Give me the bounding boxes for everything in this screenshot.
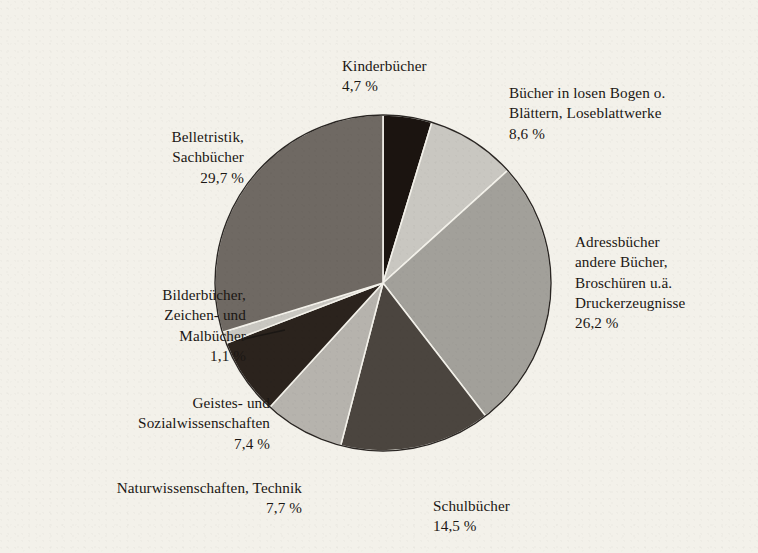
slice-label-kinderbuecher-pct: 4,7 % (342, 76, 532, 96)
slice-label-naturwissenschaften-text: Naturwissenschaften, Technik (117, 479, 302, 496)
slice-label-adressbuecher-text: Adressbücher andere Bücher, Broschüren u… (575, 233, 685, 311)
slice-label-belletristik-text: Belletristik, Sachbücher (171, 128, 244, 165)
slice-label-naturwissenschaften-pct: 7,7 % (24, 498, 302, 518)
slice-label-schulbuecher: Schulbücher 14,5 % (433, 476, 623, 553)
slice-label-geistes: Geistes- und Sozialwissenschaften 7,4 % (24, 373, 270, 474)
slice-label-bilderbuecher: Bilderbücher, Zeichen- und Malbücher 1,1… (24, 265, 246, 386)
slice-label-bilderbuecher-text: Bilderbücher, Zeichen- und Malbücher (162, 286, 246, 343)
slice-label-geistes-text: Geistes- und Sozialwissenschaften (138, 394, 270, 431)
slice-label-adressbuecher-pct: 26,2 % (575, 313, 757, 333)
slice-label-kinderbuecher: Kinderbücher 4,7 % (342, 36, 532, 117)
slice-label-geistes-pct: 7,4 % (24, 434, 270, 454)
slice-label-losebogen-text: Bücher in losen Bogen o. Blättern, Loseb… (509, 84, 665, 121)
slice-label-kinderbuecher-text: Kinderbücher (342, 57, 427, 74)
slice-label-adressbuecher: Adressbücher andere Bücher, Broschüren u… (575, 212, 757, 354)
slice-label-bilderbuecher-pct: 1,1 % (24, 346, 246, 366)
slice-label-schulbuecher-pct: 14,5 % (433, 516, 623, 536)
slice-label-losebogen-pct: 8,6 % (509, 124, 755, 144)
slice-label-schulbuecher-text: Schulbücher (433, 497, 510, 514)
slice-label-belletristik: Belletristik, Sachbücher 29,7 % (58, 107, 244, 208)
slice-label-belletristik-pct: 29,7 % (58, 168, 244, 188)
pie-chart-figure: Kinderbücher 4,7 % Bücher in losen Bogen… (0, 0, 758, 553)
slice-label-losebogen: Bücher in losen Bogen o. Blättern, Loseb… (509, 63, 755, 164)
